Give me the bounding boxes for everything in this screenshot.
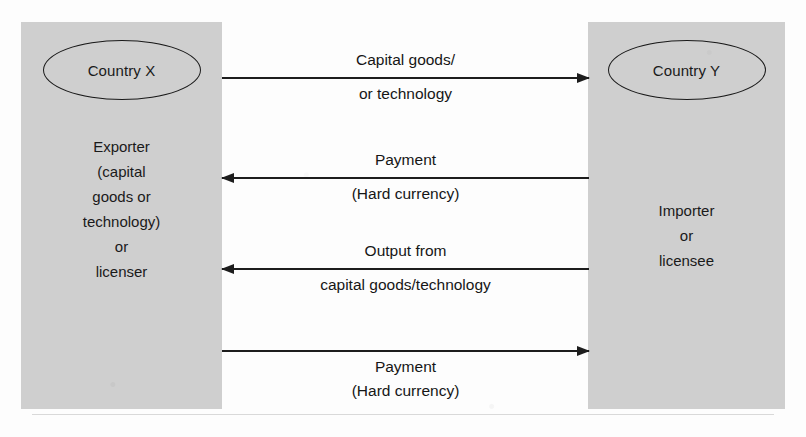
flow-label-below: (Hard currency) xyxy=(222,185,589,203)
country-y-role-stack: Importer or licensee xyxy=(588,198,785,273)
country-x-label: Country X xyxy=(88,62,156,79)
arrowhead-right-icon xyxy=(577,346,590,356)
country-y-label: Country Y xyxy=(653,62,720,79)
country-x-role-stack: Exporter (capital goods or technology) o… xyxy=(21,134,222,284)
flow-line xyxy=(222,268,589,270)
flow-line xyxy=(222,77,589,79)
flow-label-below: or technology xyxy=(222,85,589,103)
country-y-box-inner: Country Y Importer or licensee xyxy=(588,22,785,409)
country-y-role-line: Importer xyxy=(588,198,785,223)
country-y-box: Country Y Importer or licensee xyxy=(588,22,785,409)
arrowhead-left-icon xyxy=(221,173,234,183)
country-x-box-inner: Country X Exporter (capital goods or tec… xyxy=(21,22,222,409)
flow-label-below: capital goods/technology xyxy=(222,276,589,294)
country-y-role-line: or xyxy=(588,223,785,248)
country-x-role-line: licenser xyxy=(21,259,222,284)
country-x-role-line: or xyxy=(21,234,222,259)
flow-line xyxy=(222,177,589,179)
flow-label-above: Payment xyxy=(222,151,589,169)
country-x-ellipse: Country X xyxy=(43,40,201,100)
flow-label-below: Payment xyxy=(222,358,589,376)
arrowhead-left-icon xyxy=(221,264,234,274)
flow-label-below-secondary: (Hard currency) xyxy=(222,382,589,400)
country-y-role-line: licensee xyxy=(588,248,785,273)
country-x-role-line: Exporter xyxy=(21,134,222,159)
country-x-role-line: technology) xyxy=(21,209,222,234)
diagram-canvas: Country X Exporter (capital goods or tec… xyxy=(0,0,806,437)
page-bottom-rule xyxy=(32,414,774,415)
flow-line xyxy=(222,350,589,352)
country-y-ellipse: Country Y xyxy=(608,40,766,100)
flow-label-above: Output from xyxy=(222,242,589,260)
country-x-role-line: (capital xyxy=(21,159,222,184)
country-x-role-line: goods or xyxy=(21,184,222,209)
country-x-box: Country X Exporter (capital goods or tec… xyxy=(21,22,222,409)
flow-label-above: Capital goods/ xyxy=(222,51,589,69)
arrowhead-right-icon xyxy=(577,73,590,83)
